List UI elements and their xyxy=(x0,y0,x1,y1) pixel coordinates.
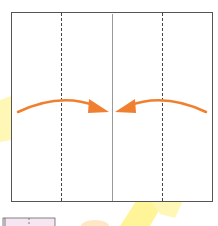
diagram-svg xyxy=(0,0,218,226)
fold-diagram xyxy=(0,0,218,226)
next-step-diagram-partial xyxy=(3,218,55,226)
